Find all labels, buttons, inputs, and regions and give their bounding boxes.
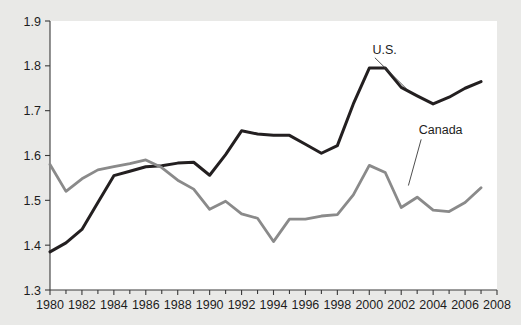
x-tick-label-1996: 1996 — [292, 298, 320, 312]
y-tick-label-1.7: 1.7 — [24, 104, 41, 118]
x-tick-label-1982: 1982 — [68, 298, 96, 312]
x-tick-label-2000: 2000 — [355, 298, 383, 312]
x-tick-label-1986: 1986 — [132, 298, 160, 312]
y-tick-label-1.9: 1.9 — [24, 15, 41, 29]
x-tick-label-1990: 1990 — [196, 298, 224, 312]
x-tick-label-2004: 2004 — [419, 298, 447, 312]
x-tick-label-2008: 2008 — [483, 298, 511, 312]
x-axis-tick-labels: 1980198219841986198819901992199419961998… — [36, 298, 511, 312]
x-tick-label-2006: 2006 — [451, 298, 479, 312]
line-chart-svg: 1.31.41.51.61.71.81.9 198019821984198619… — [0, 0, 521, 325]
x-tick-label-1994: 1994 — [260, 298, 288, 312]
y-tick-label-1.6: 1.6 — [24, 149, 41, 163]
plot-area-background — [50, 21, 497, 290]
x-tick-label-1992: 1992 — [228, 298, 256, 312]
x-tick-label-1984: 1984 — [100, 298, 128, 312]
chart-figure: 1.31.41.51.61.71.81.9 198019821984198619… — [0, 0, 521, 325]
y-tick-label-1.4: 1.4 — [24, 239, 41, 253]
y-tick-label-1.8: 1.8 — [24, 59, 41, 73]
x-tick-label-1998: 1998 — [323, 298, 351, 312]
y-tick-label-1.3: 1.3 — [24, 284, 41, 298]
x-tick-label-1980: 1980 — [36, 298, 64, 312]
x-tick-label-2002: 2002 — [387, 298, 415, 312]
y-tick-label-1.5: 1.5 — [24, 194, 41, 208]
series-label-canada: Canada — [419, 123, 463, 137]
series-label-us: U.S. — [372, 43, 396, 57]
x-tick-label-1988: 1988 — [164, 298, 192, 312]
